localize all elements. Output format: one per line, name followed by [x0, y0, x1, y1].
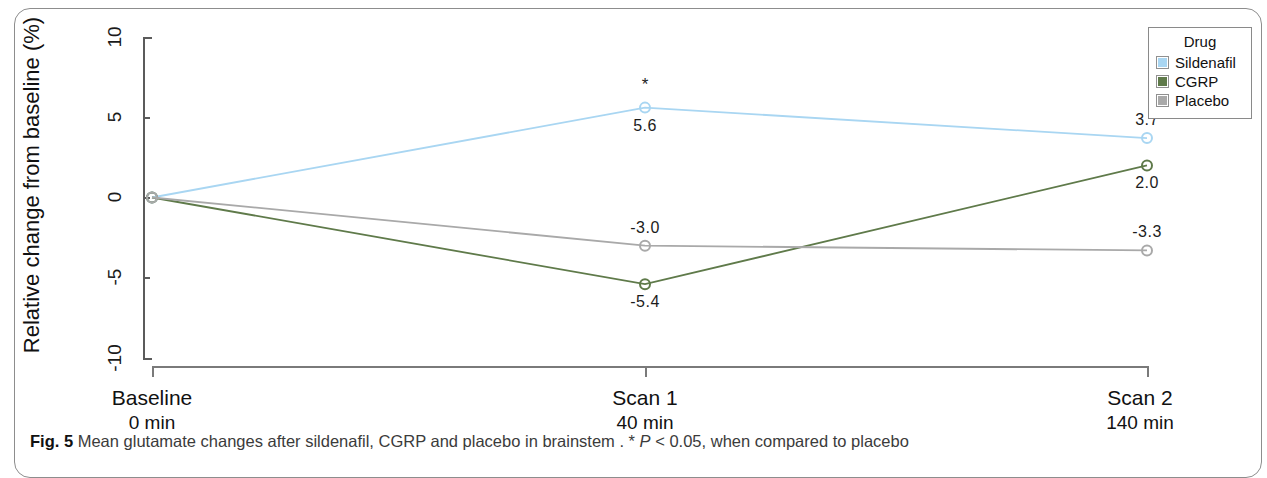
data-label-placebo-1: -3.0	[630, 219, 660, 237]
legend-swatch-placebo	[1156, 94, 1169, 107]
legend-box: Drug Sildenafil CGRP Placebo	[1148, 27, 1252, 119]
legend-label-cgrp: CGRP	[1175, 73, 1218, 90]
figure-caption: Fig. 5 Mean glutamate changes after sild…	[30, 432, 1230, 451]
legend-label-sildenafil: Sildenafil	[1175, 54, 1236, 71]
data-label-sildenafil-1: 5.6	[633, 117, 657, 135]
data-label-cgrp-2: 2.0	[1135, 174, 1159, 192]
legend-label-placebo: Placebo	[1175, 92, 1229, 109]
caption-figure-number: Fig. 5	[30, 432, 73, 450]
caption-p-symbol: P	[640, 432, 651, 450]
legend-title: Drug	[1156, 33, 1244, 50]
caption-tail: < 0.05, when compared to placebo	[651, 432, 909, 450]
caption-body: Mean glutamate changes after sildenafil,…	[73, 432, 640, 450]
legend-swatch-cgrp	[1156, 75, 1169, 88]
legend-swatch-sildenafil	[1156, 56, 1169, 69]
significance-marker-sildenafil-1: *	[642, 75, 649, 95]
legend-item-sildenafil[interactable]: Sildenafil	[1156, 54, 1244, 71]
data-label-placebo-2: -3.3	[1132, 223, 1162, 241]
chart-series-canvas	[0, 0, 1267, 400]
legend-item-placebo[interactable]: Placebo	[1156, 92, 1244, 109]
data-label-cgrp-1: -5.4	[630, 293, 660, 311]
legend-item-cgrp[interactable]: CGRP	[1156, 73, 1244, 90]
